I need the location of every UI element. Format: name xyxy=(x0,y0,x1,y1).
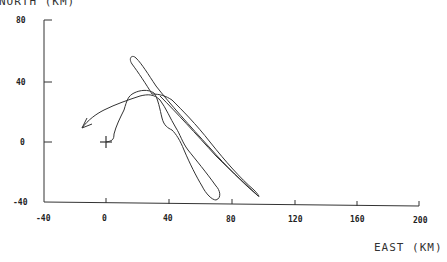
svg-text:0: 0 xyxy=(20,138,25,147)
svg-text:120: 120 xyxy=(288,215,303,224)
y-ticks: 80 40 0 -40 xyxy=(13,16,52,207)
svg-text:160: 160 xyxy=(350,215,365,224)
loop-path xyxy=(130,56,259,196)
svg-text:40: 40 xyxy=(163,214,173,223)
svg-text:-40: -40 xyxy=(13,198,28,207)
svg-text:-40: -40 xyxy=(36,214,51,223)
x-axis-label: EAST (KM) xyxy=(374,241,443,254)
svg-text:40: 40 xyxy=(16,78,26,87)
trajectory-chart: NORTH (KM) 80 40 0 -40 -40 0 40 80 120 1… xyxy=(0,0,447,262)
origin-marker-icon xyxy=(100,136,112,148)
svg-text:80: 80 xyxy=(226,215,236,224)
svg-text:200: 200 xyxy=(413,216,428,225)
svg-text:80: 80 xyxy=(16,16,26,25)
y-axis-label: NORTH (KM) xyxy=(0,0,75,8)
track-path xyxy=(82,90,220,200)
svg-text:0: 0 xyxy=(102,214,107,223)
